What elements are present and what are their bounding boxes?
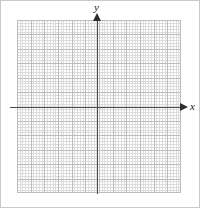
- y-axis-label: y: [94, 2, 99, 13]
- x-axis-arrow-icon: [180, 103, 188, 111]
- coordinate-grid-figure: y x: [0, 0, 200, 208]
- x-axis-line: [10, 107, 182, 108]
- x-axis-label: x: [190, 101, 195, 112]
- y-axis-arrow-icon: [93, 13, 101, 21]
- y-axis-line: [97, 18, 98, 194]
